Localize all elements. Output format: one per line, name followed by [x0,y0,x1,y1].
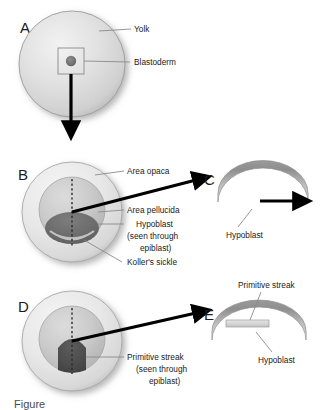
label-hypoblast-sub-1: (seen through [127,231,179,241]
label-area-opaca: Area opaca [127,166,170,176]
panel-b-letter: B [18,166,28,183]
label-primitive-streak-sub-1: (seen through [136,364,188,374]
panel-c-letter: C [204,171,215,188]
blastoderm-dot [66,56,76,66]
panel-a: A Yolk Blastoderm [19,11,176,124]
label-primitive-streak-d: Primitive streak [127,352,185,362]
label-primitive-streak-e: Primitive streak [238,280,296,290]
label-hypoblast-sub-2: epiblast) [140,243,172,253]
label-blastoderm: Blastoderm [134,57,176,67]
leader-line-hypoblast-e [256,332,272,352]
panel-e: E Primitive streak Hypoblast [204,280,306,365]
panel-e-letter: E [204,306,214,323]
leader-line-hypoblast-c [238,209,252,227]
label-area-pellucida: Area pellucida [127,205,180,215]
label-primitive-streak-sub-2: epiblast) [149,376,181,386]
label-hypoblast-b: Hypoblast [136,219,174,229]
panel-c: C Hypoblast [204,161,308,240]
panel-d: D Primitive streak (seen through epiblas… [18,291,196,391]
figure-diagram: A Yolk Blastoderm B A [0,0,327,410]
label-yolk: Yolk [134,24,150,34]
figure-caption: Figure [14,398,45,410]
panel-b: B Area opaca Area pellucida Hypoblast (s… [18,162,196,267]
label-hypoblast-c: Hypoblast [226,230,264,240]
arch-section-c [218,161,308,202]
label-hypoblast-e: Hypoblast [258,355,296,365]
panel-d-letter: D [18,298,29,315]
label-kollers-sickle: Koller's sickle [127,257,177,267]
primitive-streak-bar-e [226,320,269,327]
